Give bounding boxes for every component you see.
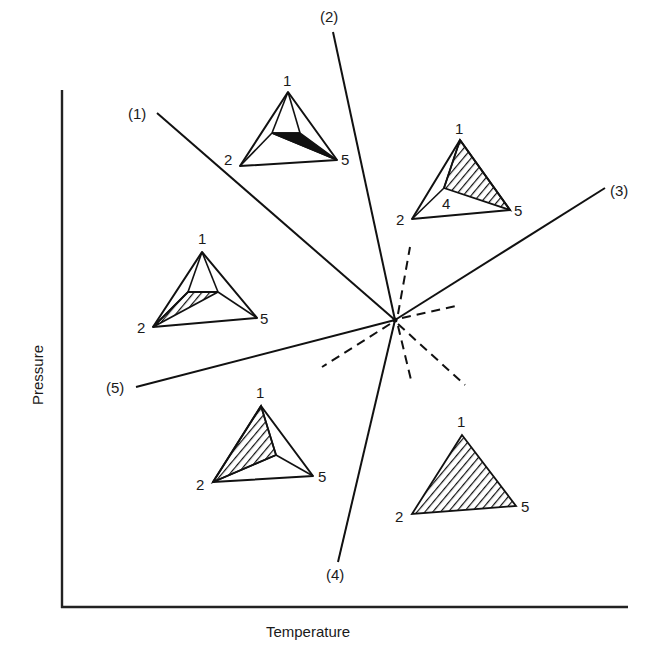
vertex-label-1: 1 [457, 413, 465, 430]
reaction-label-4: (4) [326, 566, 344, 583]
chemography-top-right: 1 2 4 5 [396, 120, 522, 228]
chemography-left-middle: 1 2 5 [137, 230, 268, 336]
reaction-line-3 [395, 188, 605, 320]
chemography-bottom-right: 1 2 5 [395, 413, 529, 525]
reaction-label-5: (5) [106, 379, 124, 396]
vertex-label-2: 2 [137, 319, 145, 336]
vertex-label-2: 2 [396, 211, 404, 228]
vertex-label-5: 5 [260, 310, 268, 327]
reaction-label-3: (3) [610, 182, 628, 199]
hatched-field [213, 406, 276, 482]
metastable-extension-5 [402, 306, 456, 318]
invariant-point [393, 318, 398, 323]
chemography-bottom-left: 1 2 5 [196, 384, 326, 493]
x-axis-label: Temperature [266, 623, 350, 640]
reaction-line-1 [157, 113, 395, 320]
vertex-label-2: 2 [196, 476, 204, 493]
vertex-label-5: 5 [341, 151, 349, 168]
reaction-label-2: (2) [320, 8, 338, 25]
vertex-label-5: 5 [514, 202, 522, 219]
axes: Temperature Pressure [29, 90, 628, 640]
vertex-label-1: 1 [283, 72, 291, 89]
triangle-outline [240, 92, 337, 166]
vertex-label-1: 1 [198, 230, 206, 247]
metastable-extension-4 [398, 247, 410, 314]
reaction-line-4 [338, 320, 395, 562]
metastable-extension-1 [398, 324, 465, 385]
vertex-label-1: 1 [256, 384, 264, 401]
hatched-triangle [412, 435, 516, 514]
vertex-label-4: 4 [442, 195, 450, 212]
vertex-label-1: 1 [455, 120, 463, 137]
y-axis-label: Pressure [29, 345, 46, 405]
reaction-line-2 [333, 32, 395, 320]
vertex-label-2: 2 [224, 151, 232, 168]
vertex-label-2: 2 [395, 508, 403, 525]
reaction-label-1: (1) [128, 105, 146, 122]
phase-diagram: Temperature Pressure (1) (2) (3) (4) (5)… [0, 0, 672, 654]
reaction-line-5 [136, 320, 395, 387]
chemography-top-center: 1 2 5 [224, 72, 349, 168]
vertex-label-5: 5 [318, 468, 326, 485]
vertex-label-5: 5 [521, 498, 529, 515]
